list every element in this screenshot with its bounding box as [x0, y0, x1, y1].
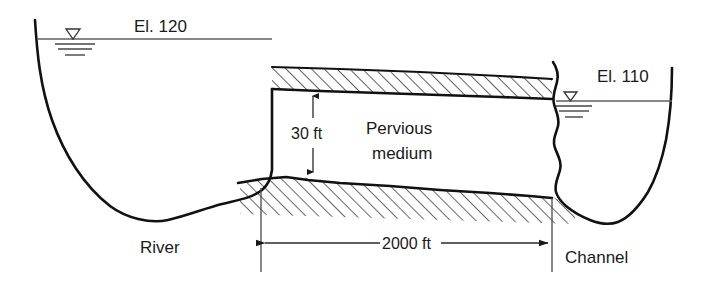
thickness-label: 30 ft	[291, 125, 323, 142]
cross-section-diagram: El. 120 El. 110 30 ft Pervious medium	[0, 0, 704, 289]
right-elevation-label: El. 110	[597, 67, 649, 86]
river-cross-section-outline	[35, 20, 272, 221]
right-water-surface-group: El. 110	[556, 67, 672, 117]
left-water-table-triangle	[66, 29, 80, 39]
upper-confining-layer	[265, 60, 560, 106]
pervious-medium-label-line2: medium	[372, 144, 432, 163]
pervious-medium-label-group: Pervious medium	[366, 119, 432, 163]
river-label: River	[140, 238, 180, 257]
right-water-table-triangle	[564, 92, 577, 101]
channel-cross-section-outline	[553, 62, 672, 224]
river-bed-profile	[35, 20, 272, 221]
pervious-medium-label-line1: Pervious	[366, 119, 432, 138]
distance-label: 2000 ft	[382, 235, 431, 252]
thickness-dimension: 30 ft	[291, 96, 323, 172]
channel-label: Channel	[565, 248, 628, 267]
lower-impervious-layer	[230, 172, 580, 228]
left-elevation-label: El. 120	[134, 17, 187, 36]
figure-root: El. 120 El. 110 30 ft Pervious medium	[0, 0, 704, 289]
upper-layer-hatching	[265, 60, 560, 106]
lower-layer-hatching	[230, 172, 580, 228]
channel-bed-profile	[553, 62, 672, 224]
left-water-surface-group: El. 120	[37, 17, 272, 55]
